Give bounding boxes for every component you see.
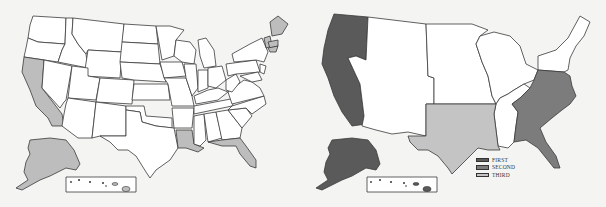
hawaii-island-oahu (89, 181, 91, 183)
hawaii-island-big-island (423, 186, 431, 191)
hawaii-island-lanai (105, 185, 107, 187)
legend-label-third: THIRD (492, 172, 510, 178)
legend-swatch-first (476, 158, 489, 163)
legend-item-third: THIRD (476, 171, 515, 179)
region-map-right (300, 0, 606, 207)
map-legend: FIRST SECOND THIRD (476, 156, 515, 179)
state-washington (28, 16, 66, 44)
hawaii-island-niihau (370, 181, 372, 183)
region-northeast (538, 16, 590, 72)
state-michigan (198, 38, 216, 68)
legend-item-first: FIRST (476, 156, 515, 164)
hawaii-island-maui (112, 183, 118, 186)
hawaii-island-oahu (390, 181, 392, 183)
state-ohio (208, 66, 226, 88)
state-indiana (198, 70, 208, 92)
state-colorado (96, 78, 134, 104)
state-south-dakota (120, 42, 160, 64)
state-florida (208, 138, 256, 168)
us-region-map (300, 0, 606, 207)
hawaii-island-molokai (403, 182, 405, 184)
state-arizona (62, 98, 96, 138)
hawaii-island-maui (413, 183, 419, 186)
state-wisconsin (174, 40, 196, 64)
state-new-mexico (92, 102, 126, 138)
state-new-jersey (260, 64, 266, 74)
state-kansas (132, 84, 170, 100)
state-mississippi (194, 114, 206, 146)
hawaii-island-niihau (70, 181, 72, 183)
us-state-map (0, 0, 300, 207)
hawaii-island-kauai (78, 179, 80, 181)
legend-label-second: SECOND (492, 164, 515, 170)
legend-label-first: FIRST (492, 157, 508, 163)
hawaii-island-kauai (379, 179, 381, 181)
state-maine (270, 16, 288, 36)
state-arkansas (172, 108, 194, 128)
state-north-dakota (122, 24, 158, 44)
legend-swatch-second (476, 165, 489, 170)
legend-swatch-third (476, 173, 489, 178)
state-nebraska (120, 62, 166, 82)
hawaii-island-molokai (102, 182, 104, 184)
state-new-york (232, 38, 268, 62)
legend-item-second: SECOND (476, 164, 515, 172)
hawaii-island-lanai (405, 185, 407, 187)
hawaii-island-big-island (122, 186, 130, 191)
state-wyoming (84, 50, 122, 78)
state-map-left (0, 0, 300, 207)
state-iowa (160, 62, 186, 78)
